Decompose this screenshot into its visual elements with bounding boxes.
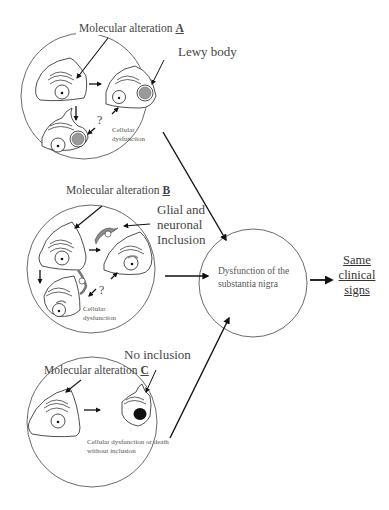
panel-c-title: Molecular alteration C [41, 365, 152, 377]
no-inclusion-label: No inclusion [124, 348, 191, 363]
dysfunctional-cell-icon [44, 276, 80, 317]
central-node-label: Dysfunction of the substantia nigra [218, 265, 289, 291]
question-mark-a: ? [97, 114, 102, 128]
arrow-c-to-center [170, 318, 229, 438]
panel-c-caption: Cellular dysfunction or death without in… [87, 438, 169, 456]
diagram-canvas [0, 0, 389, 510]
question-mark-b: ? [99, 284, 104, 298]
neuron-cell-icon [36, 58, 87, 101]
outcome-label: Same clinical signs [336, 253, 378, 298]
panel-b-caption: Cellular dysfunction [83, 305, 117, 323]
panel-c [27, 357, 157, 487]
glial-neuronal-inclusion-label: Glial and neuronal Inclusion [157, 203, 205, 248]
panel-b-title: Molecular alteration B [63, 185, 173, 197]
neuron-cell-icon [39, 222, 86, 270]
dysfunctional-cell-icon [42, 108, 88, 152]
lewy-body-cell-icon [106, 66, 156, 108]
lewy-body-label: Lewy body [178, 45, 237, 60]
neuron-cell-icon [28, 388, 80, 437]
panel-a-caption: Cellular dysfunction [112, 126, 146, 144]
inclusion-cell-icon [104, 232, 152, 275]
panel-a-title: Molecular alteration A [76, 23, 187, 35]
